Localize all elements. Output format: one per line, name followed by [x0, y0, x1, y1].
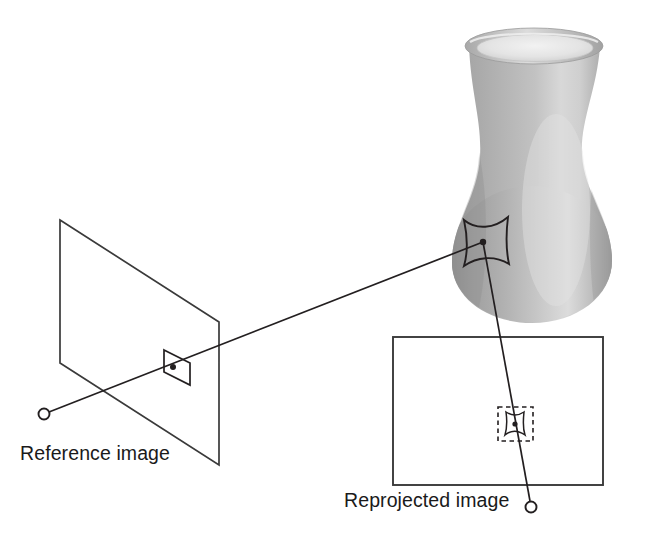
- reference-patch-outline: [164, 350, 190, 385]
- reference-image-label: Reference image: [20, 442, 170, 465]
- vase-highlight: [522, 114, 590, 306]
- reference-image-plane: [60, 220, 219, 465]
- vase-shadow-left: [438, 120, 486, 340]
- camera-centre-reference: [39, 409, 50, 420]
- reprojection-diagram: Reference image Reprojected image: [0, 0, 656, 540]
- ray-reference-to-surface: [49, 242, 483, 412]
- vase-shadow-right: [590, 125, 626, 345]
- reprojected-plane-outline: [393, 337, 603, 485]
- reference-plane-outline: [60, 220, 219, 465]
- vase-rim-inner: [477, 35, 593, 62]
- camera-centre-reprojected: [526, 502, 537, 513]
- reprojected-image-plane: [393, 337, 603, 485]
- vase-object: [438, 28, 626, 345]
- reprojected-image-label: Reprojected image: [344, 489, 509, 512]
